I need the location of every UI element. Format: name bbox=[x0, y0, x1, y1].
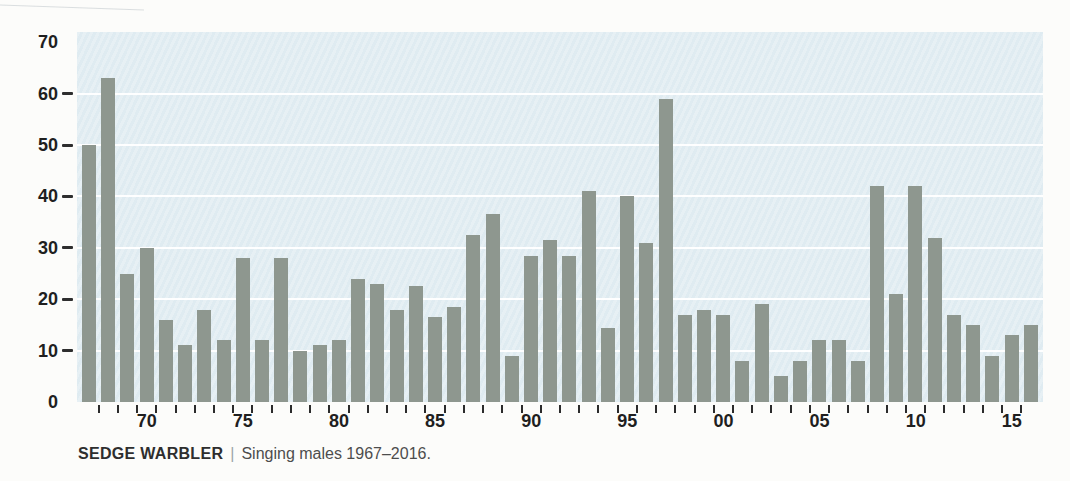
y-axis-label-50: 50 bbox=[14, 135, 58, 155]
bar-1999 bbox=[697, 310, 711, 403]
bar-1998 bbox=[678, 315, 692, 402]
x-axis-tick-7 bbox=[213, 405, 215, 413]
x-axis-tick-12 bbox=[309, 405, 311, 413]
bar-1986 bbox=[447, 307, 461, 402]
x-axis-tick-25 bbox=[559, 405, 561, 413]
bar-1982 bbox=[370, 284, 384, 402]
x-axis-tick-45 bbox=[943, 405, 945, 413]
y-axis-label-20: 20 bbox=[14, 289, 58, 309]
bar-2009 bbox=[889, 294, 903, 402]
x-axis-tick-15 bbox=[367, 405, 369, 413]
bar-1996 bbox=[639, 243, 653, 402]
bar-1969 bbox=[120, 274, 134, 402]
bar-1978 bbox=[293, 351, 307, 402]
y-axis-tick-50 bbox=[62, 144, 73, 147]
bar-2012 bbox=[947, 315, 961, 402]
x-axis-tick-30 bbox=[655, 405, 657, 413]
bar-2001 bbox=[735, 361, 749, 402]
bar-1988 bbox=[486, 214, 500, 402]
scan-edge-artifact bbox=[0, 4, 144, 10]
bar-2008 bbox=[870, 186, 884, 402]
y-axis-label-40: 40 bbox=[14, 186, 58, 206]
x-axis-tick-26 bbox=[578, 405, 580, 413]
x-axis-tick-2 bbox=[117, 405, 119, 413]
x-axis-tick-21 bbox=[482, 405, 484, 413]
bar-2005 bbox=[812, 340, 826, 402]
bar-1984 bbox=[409, 286, 423, 402]
y-axis-tick-20 bbox=[62, 298, 73, 301]
x-axis-tick-20 bbox=[463, 405, 465, 413]
bar-1972 bbox=[178, 345, 192, 402]
bar-2011 bbox=[928, 238, 942, 402]
bar-1989 bbox=[505, 356, 519, 402]
caption-species: SEDGE WARBLER bbox=[78, 445, 223, 462]
bar-1975 bbox=[236, 258, 250, 402]
x-axis-tick-17 bbox=[405, 405, 407, 413]
x-axis-label-2000: 00 bbox=[713, 411, 733, 431]
bar-2003 bbox=[774, 376, 788, 402]
x-axis-label-2005: 05 bbox=[810, 411, 830, 431]
bar-1990 bbox=[524, 256, 538, 402]
bar-2015 bbox=[1005, 335, 1019, 402]
bar-1973 bbox=[197, 310, 211, 403]
bar-1977 bbox=[274, 258, 288, 402]
bar-1981 bbox=[351, 279, 365, 402]
x-axis-tick-5 bbox=[175, 405, 177, 413]
bar-1971 bbox=[159, 320, 173, 402]
y-axis-label-0: 0 bbox=[14, 392, 58, 412]
bar-2002 bbox=[755, 304, 769, 402]
bar-1997 bbox=[659, 99, 673, 402]
x-axis-tick-37 bbox=[790, 405, 792, 413]
bar-2013 bbox=[966, 325, 980, 402]
x-axis-tick-27 bbox=[597, 405, 599, 413]
y-axis-label-60: 60 bbox=[14, 84, 58, 104]
x-axis-label-1990: 90 bbox=[521, 411, 541, 431]
x-axis-tick-6 bbox=[194, 405, 196, 413]
bar-1994 bbox=[601, 328, 615, 403]
x-axis-label-1995: 95 bbox=[617, 411, 637, 431]
x-axis-tick-32 bbox=[694, 405, 696, 413]
x-axis-tick-10 bbox=[271, 405, 273, 413]
y-axis-tick-10 bbox=[62, 349, 73, 352]
x-axis-tick-36 bbox=[770, 405, 772, 413]
x-axis-tick-47 bbox=[982, 405, 984, 413]
x-axis-label-1980: 80 bbox=[329, 411, 349, 431]
bar-1979 bbox=[313, 345, 327, 402]
bar-1983 bbox=[390, 310, 404, 403]
x-axis-tick-40 bbox=[847, 405, 849, 413]
bar-1987 bbox=[466, 235, 480, 402]
y-axis-label-10: 10 bbox=[14, 341, 58, 361]
bar-1976 bbox=[255, 340, 269, 402]
x-axis-tick-42 bbox=[886, 405, 888, 413]
bar-1985 bbox=[428, 317, 442, 402]
plot-area bbox=[77, 32, 1043, 402]
scanned-chart-page: 010203040506070 70758085909500051015 SED… bbox=[0, 0, 1070, 481]
bar-1995 bbox=[620, 196, 634, 402]
x-axis-tick-31 bbox=[674, 405, 676, 413]
y-axis-tick-60 bbox=[62, 92, 73, 95]
y-axis-tick-30 bbox=[62, 246, 73, 249]
x-axis-tick-41 bbox=[867, 405, 869, 413]
bar-2000 bbox=[716, 315, 730, 402]
bar-1980 bbox=[332, 340, 346, 402]
chart-caption: SEDGE WARBLER|Singing males 1967–2016. bbox=[78, 444, 431, 464]
bar-1970 bbox=[140, 248, 154, 402]
bar-1974 bbox=[217, 340, 231, 402]
x-axis-tick-22 bbox=[501, 405, 503, 413]
x-axis-label-1985: 85 bbox=[425, 411, 445, 431]
bar-2010 bbox=[908, 186, 922, 402]
caption-separator: | bbox=[230, 445, 234, 462]
bar-1968 bbox=[101, 78, 115, 402]
bar-1992 bbox=[562, 256, 576, 402]
bar-series bbox=[77, 32, 1043, 402]
x-axis-tick-46 bbox=[963, 405, 965, 413]
x-axis-tick-35 bbox=[751, 405, 753, 413]
x-axis-tick-1 bbox=[98, 405, 100, 413]
x-axis-tick-16 bbox=[386, 405, 388, 413]
x-axis-label-2015: 15 bbox=[1002, 411, 1022, 431]
bar-2016 bbox=[1024, 325, 1038, 402]
bar-2004 bbox=[793, 361, 807, 402]
y-axis-label-70: 70 bbox=[14, 32, 58, 52]
bar-1967 bbox=[82, 145, 96, 402]
bar-2007 bbox=[851, 361, 865, 402]
